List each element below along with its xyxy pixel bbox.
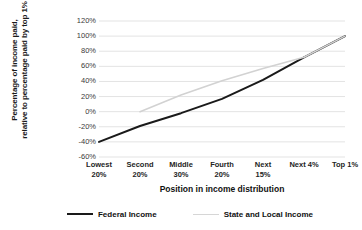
chart-legend: Federal IncomeState and Local Income: [40, 206, 340, 222]
y-axis-tick-label: 120%: [62, 17, 96, 25]
x-axis-tick-label-line: Next: [255, 160, 271, 170]
x-axis-tick-label: Lowest20%: [86, 160, 112, 179]
chart-plot-svg: [99, 21, 345, 157]
legend-item: State and Local Income: [193, 210, 313, 219]
legend-item: Federal Income: [67, 210, 157, 219]
series-line: [99, 36, 345, 142]
x-axis-tick-label-line: Middle: [169, 160, 193, 170]
y-axis-tick-label: 80%: [62, 47, 96, 55]
x-axis-tick-label-line: Top 1%: [332, 160, 358, 170]
x-axis-tick-label-line: Fourth: [210, 160, 234, 170]
legend-line-swatch: [193, 214, 219, 215]
legend-item-label: Federal Income: [98, 210, 157, 219]
x-axis-tick-label-line: Second: [126, 160, 153, 170]
x-axis-tick-label: Second20%: [126, 160, 153, 179]
chart-container: Percentage of income paid, relative to p…: [0, 0, 362, 230]
y-axis-tick-label: 0%: [62, 108, 96, 116]
x-axis-tick-label-line: 15%: [255, 170, 271, 180]
y-axis-title: Percentage of income paid, relative to p…: [10, 0, 40, 155]
y-axis-tick-label: 20%: [62, 93, 96, 101]
y-axis-title-line-1: Percentage of income paid,: [10, 0, 20, 155]
y-axis-tick-label: -20%: [62, 123, 96, 131]
legend-line-swatch: [67, 213, 93, 215]
gridlines-group: [99, 21, 345, 157]
y-axis-tick-label: 60%: [62, 62, 96, 70]
x-axis-tick-label: Next 4%: [289, 160, 318, 170]
x-axis-tick-label-line: Lowest: [86, 160, 112, 170]
series-lines-group: [99, 36, 345, 142]
x-axis-tick-label: Fourth20%: [210, 160, 234, 179]
y-axis-tick-label: -40%: [62, 138, 96, 146]
x-axis-tick-label-line: 30%: [169, 170, 193, 180]
y-axis-tick-label: 40%: [62, 77, 96, 85]
plot-area: [99, 21, 345, 157]
y-axis-tick-labels: 120%100%80%60%40%20%0%-20%-40%-60%: [62, 15, 96, 160]
x-axis-tick-label-line: Next 4%: [289, 160, 318, 170]
legend-item-label: State and Local Income: [224, 210, 313, 219]
y-axis-tick-label: 100%: [62, 32, 96, 40]
x-axis-tick-labels: Lowest20%Second20%Middle30%Fourth20%Next…: [99, 160, 345, 184]
x-axis-tick-label-line: 20%: [210, 170, 234, 180]
x-axis-tick-label-line: 20%: [126, 170, 153, 180]
y-axis-title-line-2: relative to percentage paid by top 1%: [20, 0, 30, 155]
x-axis-tick-label: Next15%: [255, 160, 271, 179]
series-line: [140, 36, 345, 112]
x-axis-tick-label-line: 20%: [86, 170, 112, 180]
x-axis-title: Position in income distribution: [99, 184, 345, 194]
x-axis-tick-label: Top 1%: [332, 160, 358, 170]
x-axis-tick-label: Middle30%: [169, 160, 193, 179]
